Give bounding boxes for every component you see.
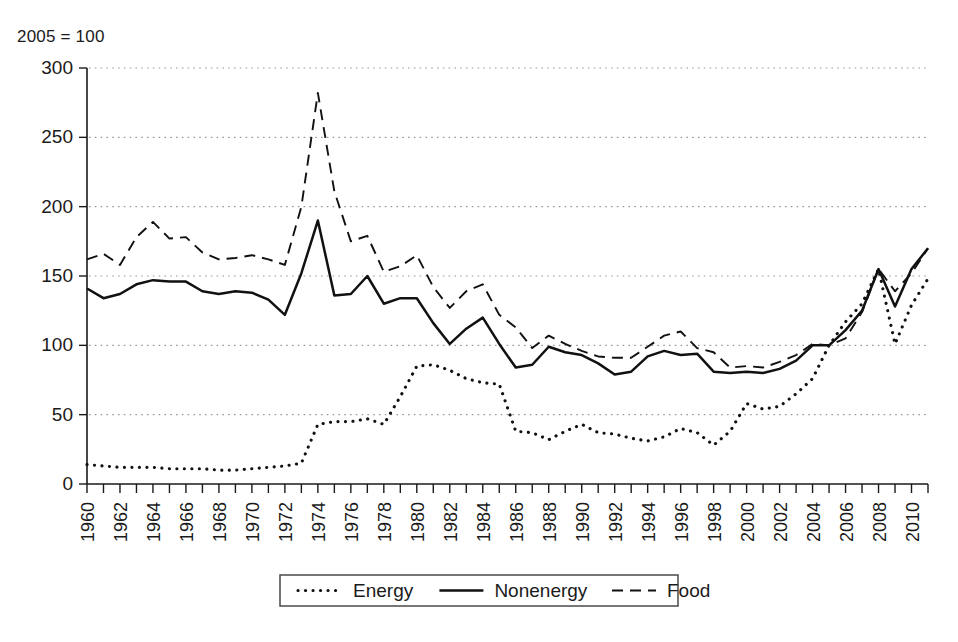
legend: EnergyNonenergyFood — [280, 575, 710, 606]
x-tick-label-1990: 1990 — [573, 502, 593, 542]
legend-label-energy: Energy — [353, 580, 414, 601]
legend-label-food: Food — [667, 580, 710, 601]
x-tick-label-1960: 1960 — [78, 502, 98, 542]
x-tick-label-1974: 1974 — [309, 502, 329, 542]
x-tick-label-2000: 2000 — [738, 502, 758, 542]
x-tick-label-1986: 1986 — [507, 502, 527, 542]
y-tick-label-100: 100 — [41, 334, 73, 355]
y-tick-label-250: 250 — [41, 126, 73, 147]
y-tick-label-300: 300 — [41, 57, 73, 78]
x-tick-label-1982: 1982 — [441, 502, 461, 542]
x-tick-label-2004: 2004 — [804, 502, 824, 542]
x-tick-label-1998: 1998 — [705, 502, 725, 542]
series-line-nonenergy — [87, 221, 928, 375]
legend-label-nonenergy: Nonenergy — [494, 580, 587, 601]
y-tick-label-200: 200 — [41, 196, 73, 217]
price-index-figure: 2005 = 100 05010015020025030019601962196… — [0, 0, 958, 642]
x-tick-label-2010: 2010 — [903, 502, 923, 542]
x-tick-label-1972: 1972 — [276, 502, 296, 542]
x-tick-label-1984: 1984 — [474, 502, 494, 542]
x-tick-label-1994: 1994 — [639, 502, 659, 542]
x-ticks: 1960196219641966196819701972197419761978… — [78, 484, 928, 542]
series-line-food — [87, 93, 928, 368]
x-tick-label-2002: 2002 — [771, 502, 791, 542]
x-tick-label-1996: 1996 — [672, 502, 692, 542]
x-tick-label-1976: 1976 — [342, 502, 362, 542]
x-tick-label-1992: 1992 — [606, 502, 626, 542]
y-tick-label-0: 0 — [62, 473, 73, 494]
y-gridlines: 050100150200250300 — [41, 57, 928, 494]
series-group — [87, 93, 928, 470]
y-tick-label-150: 150 — [41, 265, 73, 286]
x-tick-label-1966: 1966 — [177, 502, 197, 542]
x-tick-label-1968: 1968 — [210, 502, 230, 542]
x-tick-label-1978: 1978 — [375, 502, 395, 542]
line-chart: 0501001502002503001960196219641966196819… — [0, 0, 958, 642]
x-tick-label-1964: 1964 — [144, 502, 164, 542]
x-tick-label-2006: 2006 — [837, 502, 857, 542]
x-tick-label-1980: 1980 — [408, 502, 428, 542]
x-tick-label-1988: 1988 — [540, 502, 560, 542]
x-tick-label-1970: 1970 — [243, 502, 263, 542]
series-line-energy — [87, 269, 928, 470]
x-tick-label-2008: 2008 — [870, 502, 890, 542]
y-tick-label-50: 50 — [52, 404, 73, 425]
x-tick-label-1962: 1962 — [111, 502, 131, 542]
